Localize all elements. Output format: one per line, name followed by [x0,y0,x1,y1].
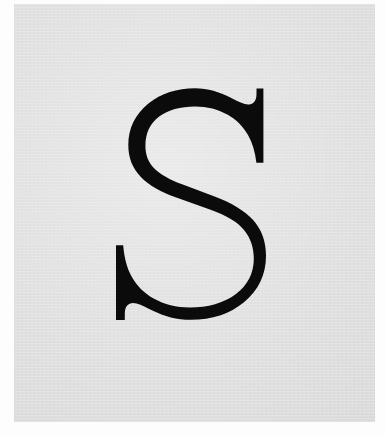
specimen-plate: Large black serif capital letter S on a … [14,4,375,422]
specimen-canvas: Large black serif capital letter S on a … [0,0,385,436]
glyph-stage: Large black serif capital letter S on a … [14,4,375,422]
letter-s-glyph: Large black serif capital letter S on a … [14,4,375,422]
letter-s-outline [116,88,266,320]
